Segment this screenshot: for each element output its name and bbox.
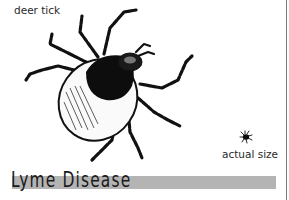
actual-size-tick-icon <box>239 130 253 144</box>
deer-tick-illustration-icon <box>20 2 200 167</box>
page-title: Lyme Disease <box>11 167 131 193</box>
actual-size-label: actual size <box>222 148 278 160</box>
right-border-rule <box>286 0 287 200</box>
